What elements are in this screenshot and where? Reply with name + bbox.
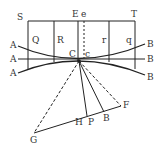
label-S: S <box>17 12 23 22</box>
label-B-mid: B <box>147 54 154 64</box>
label-e: e <box>81 9 86 19</box>
label-q: q <box>126 35 132 45</box>
optics-diagram: S E e T Q R r q A A A B B B C c F G H P … <box>0 0 161 148</box>
label-B-low: B <box>103 113 110 123</box>
curve-lower <box>18 61 145 75</box>
label-H: H <box>75 117 83 127</box>
label-R: R <box>57 35 64 45</box>
label-T: T <box>131 9 137 19</box>
label-P: P <box>88 117 94 127</box>
label-A-bot: A <box>9 68 17 78</box>
focus-point <box>77 59 81 63</box>
label-G: G <box>30 135 37 145</box>
ray-CF <box>79 61 121 106</box>
label-r: r <box>102 35 107 45</box>
label-C: C <box>69 49 76 59</box>
ray-CG <box>34 61 79 133</box>
label-A-mid: A <box>9 54 17 64</box>
label-A-top: A <box>9 40 17 50</box>
curve-upper <box>18 44 145 59</box>
label-B-top: B <box>147 39 154 49</box>
label-E: E <box>72 9 79 19</box>
label-Q: Q <box>32 35 39 45</box>
label-F: F <box>123 100 129 110</box>
label-c: c <box>85 49 90 59</box>
label-B-bot: B <box>147 72 154 82</box>
